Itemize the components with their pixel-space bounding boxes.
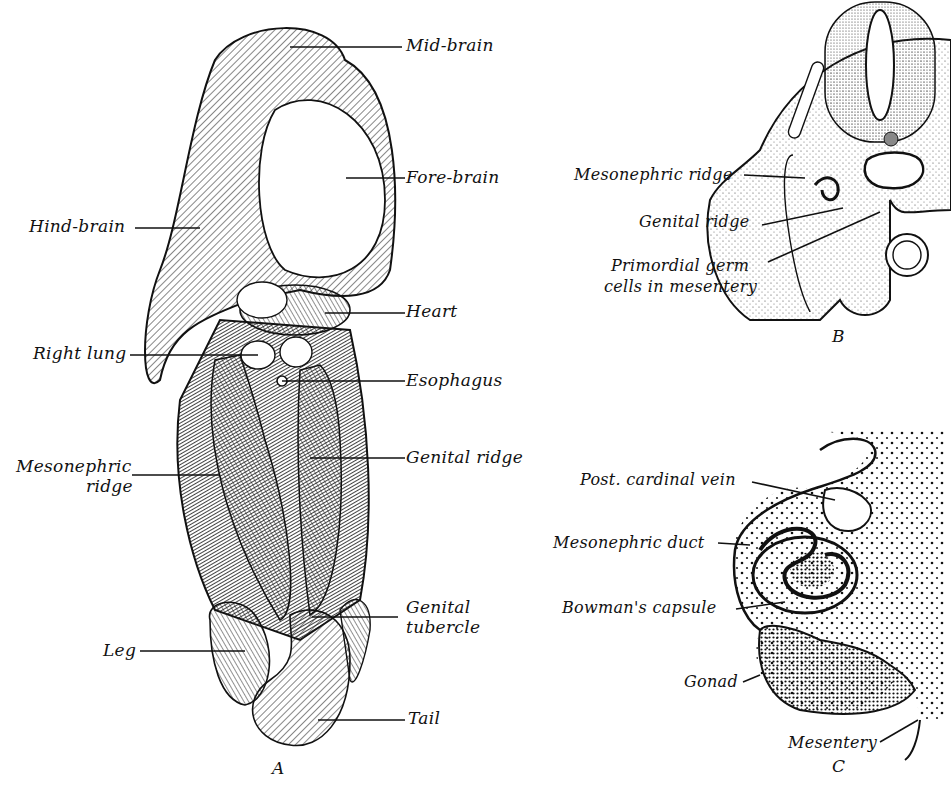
panel-a: Mid-brain Fore-brain Hind-brain Heart Ri…	[0, 0, 540, 786]
label-hind-brain: Hind-brain	[29, 217, 125, 236]
label-mid-brain: Mid-brain	[406, 36, 494, 55]
panel-letter-c: C	[832, 756, 845, 776]
label-genital-tubercle-line1: Genital	[406, 598, 471, 617]
panel-letter-a: A	[272, 758, 284, 778]
panel-c: Post. cardinal vein Mesonephric duct Bow…	[540, 420, 951, 786]
label-right-lung: Right lung	[33, 344, 127, 363]
label-genital-ridge-a: Genital ridge	[406, 448, 523, 467]
label-post-cardinal-vein: Post. cardinal vein	[580, 470, 736, 489]
label-primordial-germ-cells-line2: cells in mesentery	[604, 277, 757, 296]
label-heart: Heart	[406, 302, 457, 321]
label-leg: Leg	[103, 641, 136, 660]
label-mesonephric-ridge-a-line1: Mesonephric	[16, 457, 132, 476]
label-primordial-germ-cells-line1: Primordial germ	[611, 256, 749, 275]
label-gonad: Gonad	[684, 672, 738, 691]
label-mesonephric-ridge-b: Mesonephric ridge	[574, 165, 733, 184]
label-bowmans-capsule: Bowman's capsule	[562, 598, 716, 617]
label-esophagus: Esophagus	[406, 371, 503, 390]
panel-letter-b: B	[832, 326, 845, 346]
label-mesentery: Mesentery	[788, 733, 877, 752]
label-mesonephric-ridge-a-line2: ridge	[86, 477, 133, 496]
label-tail: Tail	[408, 709, 440, 728]
embryo-illustration	[0, 0, 540, 786]
label-genital-ridge-b: Genital ridge	[639, 212, 749, 231]
label-mesonephric-duct: Mesonephric duct	[553, 533, 705, 552]
label-fore-brain: Fore-brain	[406, 168, 500, 187]
label-genital-tubercle-line2: tubercle	[406, 618, 480, 637]
panel-b: Mesonephric ridge Genital ridge Primordi…	[560, 0, 951, 360]
